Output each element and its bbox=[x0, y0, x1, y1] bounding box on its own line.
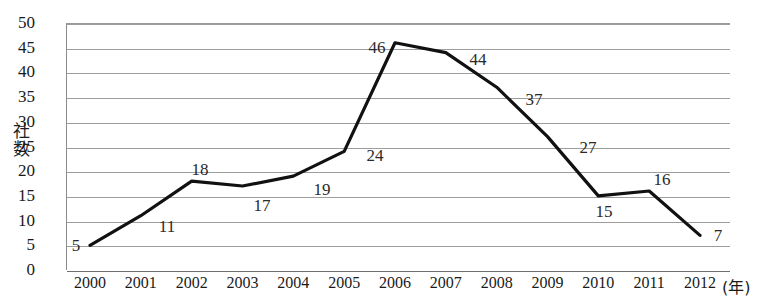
data-value-label: 37 bbox=[526, 90, 543, 110]
gridline bbox=[67, 49, 730, 50]
x-axis-tick-label: 2011 bbox=[633, 274, 664, 292]
data-value-label: 24 bbox=[367, 146, 384, 166]
gridline bbox=[67, 148, 730, 149]
y-axis-tick-label: 40 bbox=[0, 62, 35, 82]
data-value-label: 15 bbox=[596, 202, 613, 222]
gridline bbox=[67, 73, 730, 74]
y-axis-tick-label: 35 bbox=[0, 87, 35, 107]
y-axis-tick-label: 30 bbox=[0, 112, 35, 132]
y-axis-tick-label: 50 bbox=[0, 13, 35, 33]
x-axis-tick-label: 2002 bbox=[176, 274, 208, 292]
x-axis-tick-label: 2007 bbox=[430, 274, 462, 292]
gridline bbox=[67, 197, 730, 198]
x-axis-tick-label: 2009 bbox=[532, 274, 564, 292]
gridline bbox=[67, 172, 730, 173]
x-axis-tick-label: 2005 bbox=[328, 274, 360, 292]
x-axis-tick-label: 2006 bbox=[379, 274, 411, 292]
x-axis-tick-label: 2000 bbox=[74, 274, 106, 292]
data-value-label: 17 bbox=[254, 196, 271, 216]
data-value-label: 44 bbox=[470, 50, 487, 70]
x-axis-tick-label: 2008 bbox=[481, 274, 513, 292]
gridline bbox=[67, 271, 730, 272]
data-value-label: 16 bbox=[654, 170, 671, 190]
y-axis-tick-label: 10 bbox=[0, 211, 35, 231]
x-axis-tick-label: 2003 bbox=[227, 274, 259, 292]
x-axis-tick-label: 2001 bbox=[125, 274, 157, 292]
data-value-label: 18 bbox=[192, 160, 209, 180]
data-value-label: 11 bbox=[159, 217, 175, 237]
y-axis-tick-label: 15 bbox=[0, 186, 35, 206]
x-axis-unit-label: (年) bbox=[722, 274, 750, 298]
y-axis-tick-label: 45 bbox=[0, 38, 35, 58]
gridline bbox=[67, 98, 730, 99]
y-axis-tick-label: 0 bbox=[0, 260, 35, 280]
y-axis-tick-label: 20 bbox=[0, 161, 35, 181]
x-axis-tick-label: 2004 bbox=[277, 274, 309, 292]
gridline bbox=[67, 24, 730, 25]
gridline bbox=[67, 123, 730, 124]
y-axis-tick-label: 25 bbox=[0, 137, 35, 157]
data-value-label: 19 bbox=[314, 180, 331, 200]
chart-figure: 社 数 05101520253035404550 200020012002200… bbox=[0, 0, 773, 306]
data-value-label: 5 bbox=[72, 236, 81, 256]
gridline bbox=[67, 246, 730, 247]
data-value-label: 7 bbox=[714, 226, 723, 246]
data-value-label: 46 bbox=[369, 38, 386, 58]
x-axis-tick-label: 2010 bbox=[582, 274, 614, 292]
x-axis-tick-label: 2012 bbox=[684, 274, 716, 292]
y-axis-tick-label: 5 bbox=[0, 235, 35, 255]
data-value-label: 27 bbox=[580, 138, 597, 158]
